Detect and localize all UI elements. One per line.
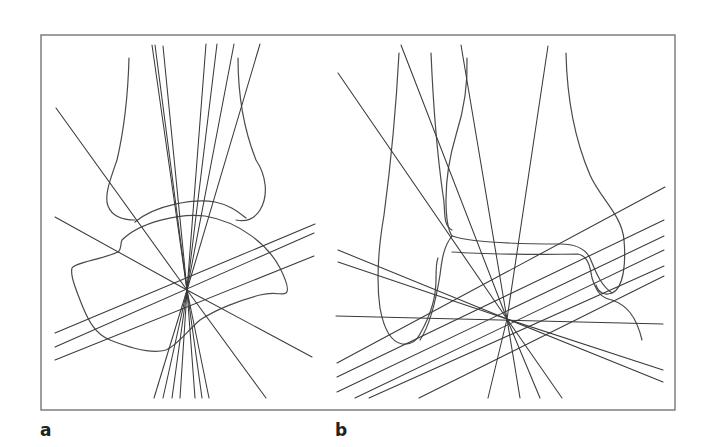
panel-label-a: a <box>40 420 51 440</box>
axis-line <box>154 290 187 398</box>
axis-line <box>338 250 507 319</box>
panel-b-talar-dome-upper <box>452 236 612 293</box>
panel-b-tibia-lateral-outline <box>566 53 625 294</box>
panel-a-fibula-outline <box>236 58 265 221</box>
axis-line <box>155 45 187 290</box>
axis-line <box>187 290 312 357</box>
axis-line <box>507 319 663 370</box>
ankle-axis-diagram <box>0 0 712 447</box>
panel-label-b: b <box>335 420 347 440</box>
axis-line <box>337 220 664 377</box>
panel-b-talar-dome-lower <box>420 236 642 340</box>
axis-line <box>187 44 234 290</box>
axis-line <box>507 319 663 382</box>
axis-line <box>338 73 507 319</box>
panel-b-tibia-medial-outline <box>431 53 452 230</box>
axis-line <box>337 236 664 392</box>
axis-line <box>336 316 663 324</box>
axis-line <box>337 187 665 363</box>
axis-line <box>187 44 206 290</box>
axis-line <box>338 262 507 319</box>
axis-line <box>507 46 548 319</box>
panel-b-fibula-outline <box>378 53 438 344</box>
axis-line <box>55 217 187 290</box>
axis-line <box>461 45 507 319</box>
axis-line <box>163 46 187 290</box>
figure-frame <box>41 35 675 410</box>
panel-a-tibia-outline <box>107 58 135 220</box>
axis-line <box>187 44 217 290</box>
axis-line <box>355 250 664 398</box>
panel-a-drawing <box>55 44 315 398</box>
panel-b-tibia-inner-outline <box>446 58 467 236</box>
panel-a-talar-dome-outer <box>135 201 246 222</box>
axis-line <box>401 45 507 319</box>
panel-b-drawing <box>336 45 665 398</box>
axis-line <box>187 44 260 290</box>
